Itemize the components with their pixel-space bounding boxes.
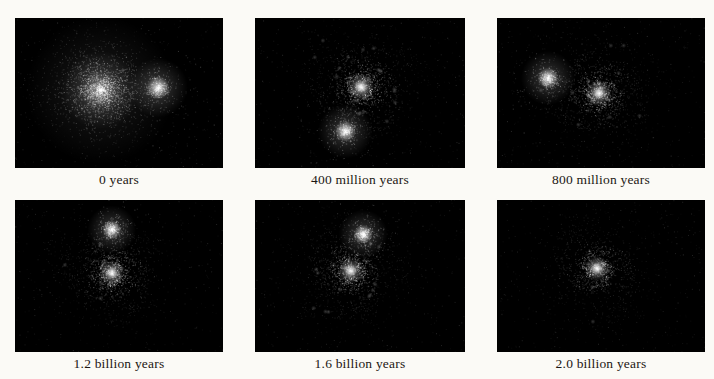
panel-caption-5: 2.0 billion years <box>497 352 705 379</box>
panel-caption-3: 1.2 billion years <box>15 352 223 379</box>
simulation-panel-0 <box>15 18 223 168</box>
simulation-panel-1 <box>255 18 465 168</box>
galaxy-image-1-2-billion-years <box>15 200 223 352</box>
figure-page: 0 years 400 million years 800 million ye… <box>0 0 714 379</box>
galaxy-image-800-million-years <box>497 18 705 168</box>
simulation-panel-4 <box>255 200 465 352</box>
galaxy-image-1-6-billion-years <box>255 200 465 352</box>
simulation-panel-5 <box>497 200 705 352</box>
galaxy-image-400-million-years <box>255 18 465 168</box>
panel-caption-1: 400 million years <box>255 168 465 200</box>
simulation-panel-3 <box>15 200 223 352</box>
panel-caption-4: 1.6 billion years <box>255 352 465 379</box>
galaxy-image-0-years <box>15 18 223 168</box>
galaxy-image-2-0-billion-years <box>497 200 705 352</box>
galaxy-collision-figure: 0 years 400 million years 800 million ye… <box>15 18 705 379</box>
simulation-panel-2 <box>497 18 705 168</box>
panel-caption-2: 800 million years <box>497 168 705 200</box>
panel-caption-0: 0 years <box>15 168 223 200</box>
